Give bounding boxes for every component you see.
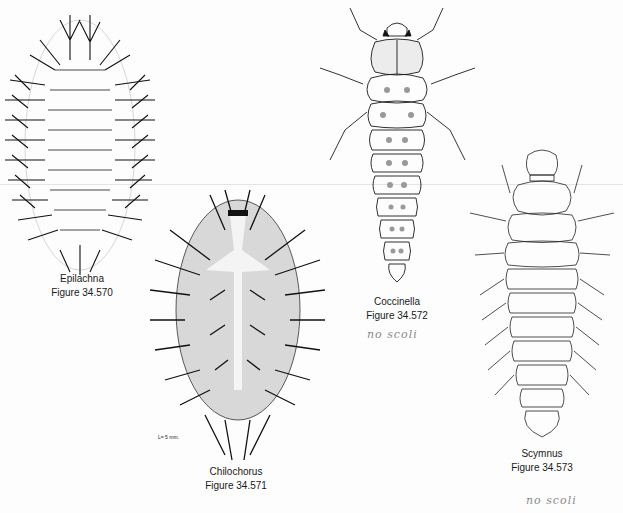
epilachna-larva-illustration xyxy=(0,10,165,280)
caption-epilachna: Epilachna Figure 34.570 xyxy=(42,272,122,300)
genus-label: Coccinella xyxy=(357,295,437,309)
figure-number: Figure 34.571 xyxy=(196,479,276,493)
handwritten-annotation: no scoli xyxy=(367,328,418,341)
genus-label: Chilochorus xyxy=(196,465,276,479)
figure-number: Figure 34.572 xyxy=(357,309,437,323)
handwritten-annotation: no scoli xyxy=(526,494,577,507)
figure-number: Figure 34.570 xyxy=(42,286,122,300)
figure-coccinella: Coccinella Figure 34.572 no scoli xyxy=(315,0,480,350)
figure-number: Figure 34.573 xyxy=(502,461,582,475)
figure-epilachna: Epilachna Figure 34.570 xyxy=(0,10,165,280)
caption-scymnus: Scymnus Figure 34.573 xyxy=(502,447,582,475)
caption-chilochorus: Chilochorus Figure 34.571 xyxy=(196,465,276,493)
caption-coccinella: Coccinella Figure 34.572 xyxy=(357,295,437,323)
coccinella-larva-illustration xyxy=(315,0,480,290)
figure-scymnus: Scymnus Figure 34.573 no scoli xyxy=(460,145,623,513)
genus-label: Epilachna xyxy=(42,272,122,286)
chilochorus-larva-illustration xyxy=(150,190,325,460)
figure-page: Epilachna Figure 34.570 L= 5 mm. Chiloch… xyxy=(0,0,623,513)
genus-label: Scymnus xyxy=(502,447,582,461)
scymnus-larva-illustration xyxy=(460,145,623,445)
scale-bar-label: L= 5 mm. xyxy=(158,434,179,440)
figure-chilochorus: L= 5 mm. Chilochorus Figure 34.571 xyxy=(150,190,325,500)
